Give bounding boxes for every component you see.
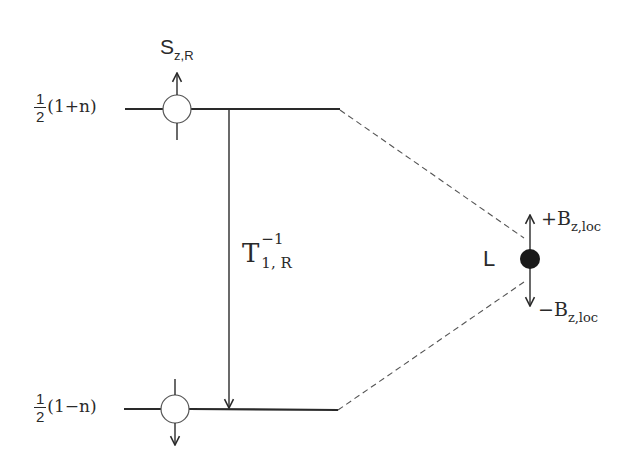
spin-up-node-icon (163, 95, 191, 123)
spin-label: Sz,R (160, 36, 194, 62)
upper-level-fraction: 1 2 (34, 91, 46, 124)
transition-subscript: 1, R (261, 256, 291, 271)
upper-level-expr: (1+n) (47, 96, 96, 116)
lower-level-label: 1 2 (1−n) (34, 391, 97, 424)
upper-level-label: 1 2 (1+n) (34, 91, 97, 124)
transition-label: T −1 1, R (242, 240, 299, 266)
lower-level-fraction: 1 2 (34, 391, 46, 424)
lower-level (124, 379, 338, 445)
lower-level-expr: (1−n) (47, 396, 96, 416)
upper-level (125, 73, 340, 140)
upper-dashed-connector (340, 110, 524, 238)
local-label: L (483, 248, 495, 270)
lower-dashed-connector (338, 282, 524, 410)
transition-superscript: −1 (261, 232, 283, 247)
minus-field-label: −Bz,loc (538, 300, 598, 324)
spin-down-node-icon (161, 395, 189, 423)
local-spin-dot-icon (520, 249, 540, 269)
plus-field-label: +Bz,loc (541, 209, 601, 233)
